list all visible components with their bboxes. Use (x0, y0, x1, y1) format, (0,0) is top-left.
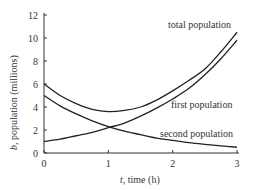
y-tick-label: 12 (28, 10, 38, 21)
label-first-population: first population (171, 99, 232, 110)
x-tick-label: 1 (106, 158, 111, 169)
x-tick-label: 0 (42, 158, 47, 169)
y-tick-label: 0 (33, 148, 38, 159)
x-tick-label: 2 (170, 158, 175, 169)
y-tick-label: 4 (33, 102, 38, 113)
y-tick-label: 2 (33, 125, 38, 136)
label-second-population: second population (160, 128, 233, 139)
curve-first-population (44, 40, 237, 141)
x-axis-title: t, time (h) (120, 174, 160, 186)
y-tick-label: 8 (33, 56, 38, 67)
x-tick-label: 3 (235, 158, 240, 169)
label-total-population: total population (168, 19, 231, 30)
y-tick-label: 10 (28, 33, 38, 44)
y-axis-title: b, population (millions) (8, 55, 20, 150)
population-chart: 024681012 0123 total population first po… (0, 0, 253, 191)
y-tick-label: 6 (33, 79, 38, 90)
